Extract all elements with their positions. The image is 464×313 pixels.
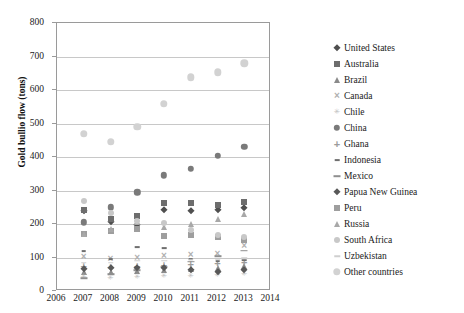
data-point bbox=[135, 247, 140, 249]
data-point bbox=[108, 269, 114, 275]
legend-label: Mexico bbox=[344, 168, 373, 184]
data-point bbox=[215, 265, 221, 271]
data-point bbox=[80, 265, 88, 273]
data-point: ✳ bbox=[107, 274, 113, 282]
gridline bbox=[57, 224, 269, 225]
legend-item-other-countries[interactable]: Other countries bbox=[330, 264, 462, 280]
data-point bbox=[81, 262, 87, 264]
y-tick-label: 600 bbox=[30, 84, 44, 94]
legend-item-mexico[interactable]: Mexico bbox=[330, 168, 462, 184]
legend-item-brazil[interactable]: Brazil bbox=[330, 72, 462, 88]
data-point: ✳ bbox=[161, 272, 167, 280]
gridline bbox=[57, 258, 269, 259]
marker-dash-small bbox=[335, 159, 340, 161]
marker-plus: + bbox=[334, 139, 340, 150]
data-point bbox=[161, 267, 167, 273]
data-point bbox=[81, 198, 87, 204]
y-tick-label: 300 bbox=[30, 185, 44, 195]
data-point bbox=[188, 232, 194, 238]
chart-legend: United StatesAustraliaBrazil×Canada✳Chil… bbox=[330, 40, 462, 290]
data-point bbox=[107, 273, 114, 275]
data-point bbox=[241, 237, 247, 243]
legend-item-south-africa[interactable]: South Africa bbox=[330, 232, 462, 248]
data-point bbox=[107, 264, 115, 272]
data-point bbox=[214, 153, 220, 159]
data-point bbox=[80, 207, 88, 215]
data-point: + bbox=[107, 261, 113, 272]
marker-dot-light bbox=[334, 237, 340, 243]
data-point bbox=[161, 220, 167, 226]
data-point bbox=[241, 59, 248, 66]
legend-label: United States bbox=[344, 40, 395, 56]
data-point bbox=[214, 268, 222, 276]
data-point bbox=[162, 247, 167, 249]
legend-label: Russia bbox=[344, 216, 369, 232]
data-point bbox=[188, 200, 194, 206]
data-point bbox=[161, 172, 167, 178]
data-point bbox=[240, 266, 248, 274]
gridline bbox=[57, 157, 269, 158]
data-point bbox=[188, 166, 194, 172]
data-point: ✳ bbox=[214, 271, 220, 279]
data-point bbox=[81, 231, 87, 237]
data-point bbox=[187, 74, 194, 81]
data-point bbox=[240, 204, 248, 212]
y-tick-mark bbox=[52, 290, 56, 291]
legend-label: Ghana bbox=[344, 136, 369, 152]
data-point bbox=[214, 206, 222, 214]
data-point bbox=[215, 259, 221, 261]
data-point bbox=[187, 261, 194, 263]
marker-x: × bbox=[334, 91, 340, 101]
legend-item-chile[interactable]: ✳Chile bbox=[330, 104, 462, 120]
data-point bbox=[215, 234, 221, 240]
marker-diamond bbox=[333, 44, 341, 52]
x-tick-label: 2014 bbox=[250, 292, 290, 304]
data-point bbox=[241, 199, 247, 205]
data-point bbox=[241, 263, 247, 269]
legend-item-canada[interactable]: ×Canada bbox=[330, 88, 462, 104]
scatter-chart: Gold bullio flow (tons) 0100200300400500… bbox=[0, 0, 464, 313]
data-point bbox=[241, 211, 247, 217]
legend-item-russia[interactable]: Russia bbox=[330, 216, 462, 232]
data-point bbox=[108, 210, 114, 216]
data-point bbox=[134, 226, 140, 232]
x-axis: 200620072008200920102011201220132014 bbox=[0, 292, 464, 308]
data-point bbox=[215, 216, 221, 222]
data-point bbox=[81, 251, 86, 253]
data-point: ✳ bbox=[188, 272, 194, 280]
legend-item-indonesia[interactable]: Indonesia bbox=[330, 152, 462, 168]
legend-item-china[interactable]: China bbox=[330, 120, 462, 136]
data-point bbox=[188, 259, 194, 261]
legend-item-peru[interactable]: Peru bbox=[330, 200, 462, 216]
data-point: × bbox=[188, 250, 194, 260]
legend-label: Canada bbox=[344, 88, 373, 104]
legend-label: Papua New Guinea bbox=[344, 184, 417, 200]
data-point: ✳ bbox=[134, 274, 140, 282]
legend-item-australia[interactable]: Australia bbox=[330, 56, 462, 72]
legend-item-ghana[interactable]: +Ghana bbox=[330, 136, 462, 152]
data-point: × bbox=[108, 254, 114, 264]
y-tick-label: 500 bbox=[30, 118, 44, 128]
data-point: × bbox=[241, 241, 247, 251]
gridline bbox=[57, 191, 269, 192]
marker-triangle bbox=[334, 77, 340, 83]
legend-item-united-states[interactable]: United States bbox=[330, 40, 462, 56]
data-point bbox=[108, 262, 114, 264]
data-point bbox=[80, 130, 87, 137]
data-point: + bbox=[188, 258, 194, 269]
data-point bbox=[215, 202, 221, 208]
y-axis: 0100200300400500600700800 bbox=[0, 0, 52, 313]
data-point bbox=[188, 266, 194, 272]
y-tick-label: 700 bbox=[30, 51, 44, 61]
y-tick-label: 400 bbox=[30, 151, 44, 161]
legend-item-uzbekistan[interactable]: Uzbekistan bbox=[330, 248, 462, 264]
data-point bbox=[215, 260, 220, 262]
data-point bbox=[81, 231, 87, 237]
data-point bbox=[134, 269, 141, 271]
data-point bbox=[160, 206, 168, 214]
data-point bbox=[215, 232, 221, 238]
data-point bbox=[134, 268, 140, 274]
data-point bbox=[187, 266, 195, 274]
marker-star: ✳ bbox=[334, 108, 340, 116]
legend-item-papua-new-guinea[interactable]: Papua New Guinea bbox=[330, 184, 462, 200]
